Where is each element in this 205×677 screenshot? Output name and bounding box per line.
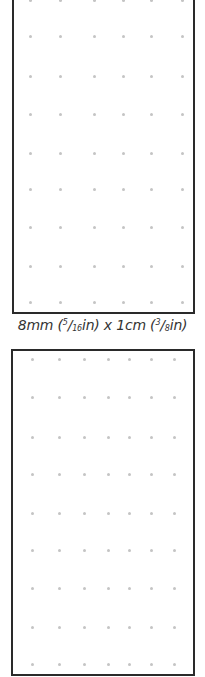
grid-dot xyxy=(31,663,34,666)
grid-dot xyxy=(128,587,131,590)
grid-dot xyxy=(150,226,153,229)
grid-dot xyxy=(128,626,131,629)
grid-dot xyxy=(83,396,86,399)
grid-dot xyxy=(173,549,176,552)
grid-dot xyxy=(107,549,110,552)
grid-dot xyxy=(150,301,153,304)
grid-dot xyxy=(173,512,176,515)
grid-dot xyxy=(150,75,153,78)
grid-dot xyxy=(31,436,34,439)
grid-dot xyxy=(150,663,153,666)
grid-dot xyxy=(150,396,153,399)
grid-dot xyxy=(173,396,176,399)
grid-dot xyxy=(93,35,96,38)
grid-dot xyxy=(93,265,96,268)
grid-dot xyxy=(31,626,34,629)
grid-dot xyxy=(150,626,153,629)
fraction-1-denominator: 16 xyxy=(72,324,82,333)
grid-dot xyxy=(181,301,184,304)
grid-dot xyxy=(173,436,176,439)
grid-dot xyxy=(83,512,86,515)
grid-dot xyxy=(122,113,125,116)
grid-dot xyxy=(58,396,61,399)
grid-dot xyxy=(107,663,110,666)
grid-dot xyxy=(150,35,153,38)
grid-dot xyxy=(93,188,96,191)
grid-dot xyxy=(29,35,32,38)
grid-dot xyxy=(128,549,131,552)
grid-dot xyxy=(59,188,62,191)
grid-dot xyxy=(173,473,176,476)
fraction-1-numerator: 5 xyxy=(63,318,68,327)
grid-dot xyxy=(122,301,125,304)
grid-dot xyxy=(173,663,176,666)
grid-dot xyxy=(31,358,34,361)
grid-dot xyxy=(150,358,153,361)
grid-dot xyxy=(93,152,96,155)
grid-dot xyxy=(150,587,153,590)
grid-dot xyxy=(107,512,110,515)
grid-dot xyxy=(181,152,184,155)
grid-dot xyxy=(93,226,96,229)
grid-dot xyxy=(128,358,131,361)
grid-dot xyxy=(83,663,86,666)
grid-dot xyxy=(58,663,61,666)
grid-dot xyxy=(128,512,131,515)
grid-dot xyxy=(93,113,96,116)
grid-dot xyxy=(107,626,110,629)
grid-dot xyxy=(59,301,62,304)
grid-dot xyxy=(150,549,153,552)
grid-dot xyxy=(83,587,86,590)
grid-dot xyxy=(150,512,153,515)
grid-dot xyxy=(31,512,34,515)
grid-dot xyxy=(107,358,110,361)
grid-dot xyxy=(59,152,62,155)
grid-dot xyxy=(58,473,61,476)
grid-dot xyxy=(31,396,34,399)
grid-dot xyxy=(122,265,125,268)
dot-grid-panel-1 xyxy=(12,0,195,314)
grid-dot xyxy=(58,358,61,361)
grid-dot xyxy=(58,549,61,552)
grid-dot xyxy=(150,188,153,191)
grid-dot xyxy=(181,113,184,116)
grid-dot xyxy=(59,113,62,116)
grid-dot xyxy=(29,152,32,155)
grid-dot xyxy=(128,396,131,399)
grid-dot xyxy=(59,265,62,268)
grid-size-caption: 8mm (5/16in) x 1cm (3/8in) xyxy=(0,317,205,333)
grid-dot xyxy=(83,549,86,552)
caption-middle: in) x 1cm ( xyxy=(82,317,155,333)
dot-grid-panel-2 xyxy=(11,349,195,676)
grid-dot xyxy=(59,226,62,229)
grid-dot xyxy=(122,75,125,78)
grid-dot xyxy=(181,226,184,229)
grid-dot xyxy=(29,75,32,78)
grid-dot xyxy=(122,188,125,191)
grid-dot xyxy=(181,265,184,268)
grid-dot xyxy=(107,473,110,476)
grid-dot xyxy=(29,301,32,304)
grid-dot xyxy=(107,587,110,590)
grid-dot xyxy=(181,75,184,78)
grid-dot xyxy=(59,75,62,78)
grid-dot xyxy=(93,301,96,304)
grid-dot xyxy=(107,436,110,439)
grid-dot xyxy=(31,549,34,552)
grid-dot xyxy=(83,358,86,361)
grid-dot xyxy=(58,626,61,629)
grid-dot xyxy=(150,113,153,116)
grid-dot xyxy=(83,436,86,439)
grid-dot xyxy=(150,473,153,476)
grid-dot xyxy=(181,188,184,191)
grid-dot xyxy=(83,626,86,629)
grid-dot xyxy=(181,35,184,38)
grid-dot xyxy=(107,396,110,399)
grid-dot xyxy=(122,226,125,229)
grid-dot xyxy=(128,436,131,439)
grid-dot xyxy=(150,152,153,155)
grid-dot xyxy=(29,226,32,229)
grid-dot xyxy=(31,473,34,476)
grid-dot xyxy=(173,358,176,361)
grid-dot xyxy=(29,265,32,268)
